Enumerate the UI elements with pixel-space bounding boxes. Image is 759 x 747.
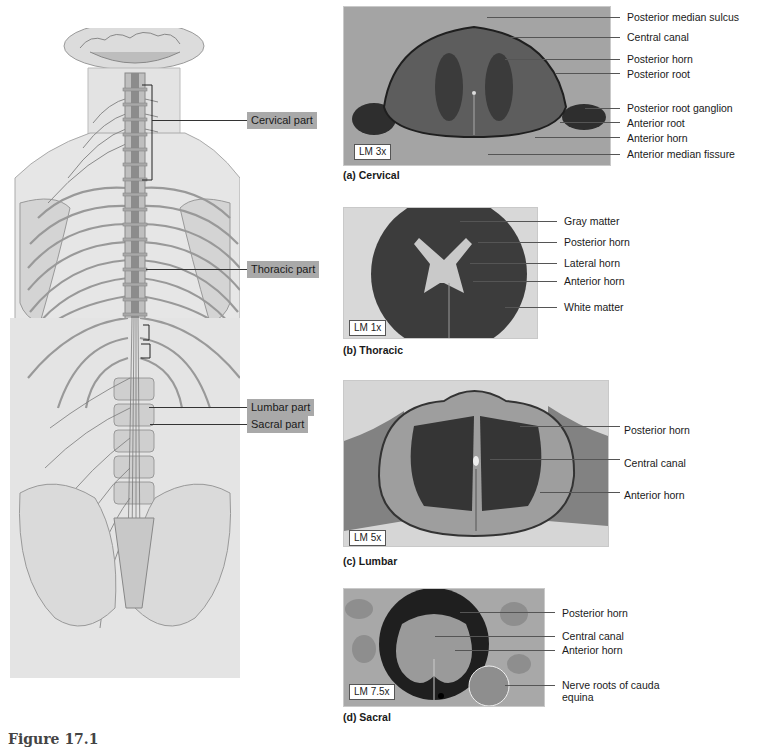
- label-lateral-horn: Lateral horn: [564, 257, 620, 269]
- thoracic-part-label: Thoracic part: [247, 261, 319, 278]
- magnification-badge: LM 5x: [349, 530, 386, 546]
- magnification-badge: LM 1x: [349, 320, 386, 336]
- cervical-micrograph: LM 3x: [343, 6, 611, 166]
- label-posterior-root-ganglion: Posterior root ganglion: [627, 102, 733, 114]
- label-central-canal: Central canal: [624, 457, 686, 469]
- leader-line: [455, 650, 555, 651]
- sacral-part-label: Sacral part: [247, 416, 308, 433]
- leader-line: [490, 459, 620, 460]
- lumbar-part-label: Lumbar part: [247, 399, 314, 416]
- leader-line: [555, 73, 620, 74]
- label-posterior-horn: Posterior horn: [627, 53, 693, 65]
- thoracic-leader-line: [146, 269, 247, 270]
- lumbar-cross-section-icon: [344, 381, 608, 546]
- cervical-cross-section-icon: [344, 7, 610, 165]
- panel-d-caption: (d) Sacral: [343, 711, 391, 723]
- label-posterior-horn: Posterior horn: [564, 236, 630, 248]
- cervical-part-label: Cervical part: [247, 112, 317, 129]
- lumbar-pelvis-drawing: [10, 318, 240, 678]
- label-anterior-horn: Anterior horn: [627, 132, 688, 144]
- leader-line: [540, 492, 620, 493]
- leader-line: [505, 307, 557, 308]
- leader-line: [505, 685, 555, 686]
- leader-line: [473, 281, 557, 282]
- label-anterior-root: Anterior root: [627, 117, 685, 129]
- leader-line: [470, 263, 557, 264]
- leader-line: [460, 221, 557, 222]
- label-posterior-horn: Posterior horn: [562, 607, 628, 619]
- magnification-badge: LM 3x: [354, 144, 391, 160]
- label-white-matter: White matter: [564, 301, 624, 313]
- figure-caption: Figure 17.1: [8, 731, 98, 747]
- magnification-badge: LM 7.5x: [349, 684, 395, 700]
- label-posterior-median-sulcus: Posterior median sulcus: [627, 11, 739, 23]
- leader-line: [505, 59, 620, 60]
- lumbar-leader-line: [149, 407, 247, 408]
- leader-line: [460, 612, 555, 613]
- leader-line: [488, 154, 620, 155]
- label-posterior-root: Posterior root: [627, 68, 690, 80]
- leader-line: [560, 122, 620, 123]
- label-central-canal: Central canal: [627, 31, 689, 43]
- label-gray-matter: Gray matter: [564, 215, 619, 227]
- label-anterior-horn: Anterior horn: [624, 489, 685, 501]
- panel-b-caption: (b) Thoracic: [343, 344, 403, 356]
- label-nerve-roots-cauda-equina: Nerve roots of cauda equina: [562, 679, 672, 703]
- leader-line: [435, 636, 555, 637]
- cervical-leader-line: [152, 120, 247, 121]
- lumbar-micrograph: LM 5x: [343, 380, 609, 547]
- label-central-canal: Central canal: [562, 630, 624, 642]
- thoracic-cross-section-icon: [344, 208, 537, 338]
- label-posterior-horn: Posterior horn: [624, 424, 690, 436]
- sacral-leader-line: [150, 424, 247, 425]
- leader-line: [478, 242, 557, 243]
- panel-c-caption: (c) Lumbar: [343, 555, 397, 567]
- leader-line: [487, 17, 620, 18]
- label-anterior-horn: Anterior horn: [562, 644, 623, 656]
- thoracic-micrograph: LM 1x: [343, 207, 538, 339]
- label-anterior-median-fissure: Anterior median fissure: [627, 148, 735, 160]
- label-anterior-horn: Anterior horn: [564, 275, 625, 287]
- leader-line: [585, 108, 620, 109]
- leader-line: [535, 137, 620, 138]
- sacral-micrograph: LM 7.5x: [343, 588, 545, 707]
- panel-a-caption: (a) Cervical: [343, 169, 400, 181]
- leader-line: [520, 426, 620, 427]
- posterior-spine-anatomy-drawing: [10, 28, 240, 320]
- leader-line: [510, 37, 620, 38]
